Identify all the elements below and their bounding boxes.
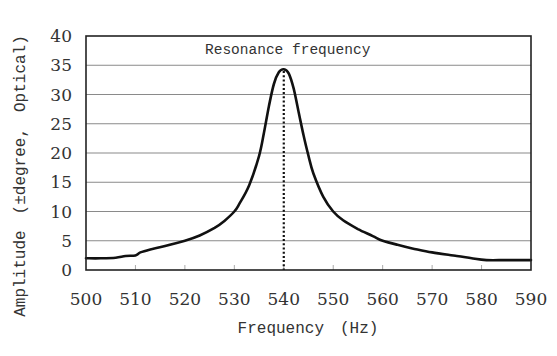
- y-tick-label: 5: [61, 231, 72, 251]
- x-tick-label: 500: [70, 289, 102, 309]
- x-axis-label: Frequency (Hz): [238, 320, 379, 338]
- y-tick-label: 20: [50, 143, 72, 163]
- amplitude-curve: [86, 69, 531, 260]
- resonance-chart: Resonance frequency 0510152025303540 500…: [0, 0, 557, 356]
- x-tick-label: 520: [169, 289, 201, 309]
- y-axis-label: Amplitude (±degree, Optical): [12, 35, 30, 317]
- y-tick-label: 10: [50, 202, 72, 222]
- x-tick-label: 590: [515, 289, 547, 309]
- y-tick-label: 30: [50, 85, 72, 105]
- y-tick-label: 25: [50, 114, 72, 134]
- x-tick-label: 510: [119, 289, 151, 309]
- x-tick-label: 560: [366, 289, 398, 309]
- y-tick-label: 35: [50, 55, 72, 75]
- x-tick-labels: 500510520530540550560570580590: [70, 289, 547, 309]
- x-tick-label: 580: [465, 289, 497, 309]
- x-tick-label: 530: [218, 289, 250, 309]
- x-tick-label: 570: [416, 289, 448, 309]
- y-tick-label: 40: [50, 26, 72, 46]
- y-tick-label: 0: [61, 260, 72, 280]
- y-tick-labels: 0510152025303540: [50, 26, 72, 280]
- resonance-frequency-label: Resonance frequency: [205, 42, 371, 58]
- y-tick-label: 15: [50, 172, 72, 192]
- x-tick-label: 550: [317, 289, 349, 309]
- x-tick-label: 540: [268, 289, 300, 309]
